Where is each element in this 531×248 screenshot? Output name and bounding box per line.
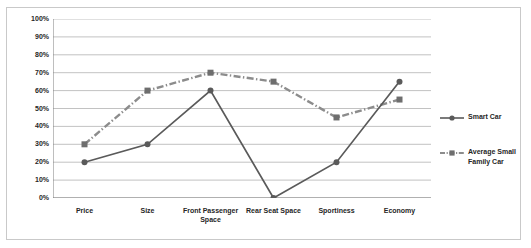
- data-point-marker: [271, 79, 277, 85]
- legend-item-smart-car: Smart Car: [439, 112, 519, 123]
- data-point-marker: [208, 88, 214, 94]
- x-axis-tick-label: Size: [116, 206, 179, 236]
- data-point-marker: [208, 70, 214, 76]
- x-axis-tick-label: Front Passenger Space: [179, 206, 242, 236]
- y-axis-tick-label: 10%: [15, 176, 49, 183]
- x-axis-tick-label: Economy: [368, 206, 431, 236]
- data-point-marker: [334, 114, 340, 120]
- legend-item-average-small-family-car: Average Small Family Car: [439, 147, 519, 167]
- x-axis-tick-label: Price: [53, 206, 116, 236]
- legend-label-smart-car: Smart Car: [468, 112, 501, 122]
- chart-legend: Smart Car Average Small Family Car: [439, 112, 519, 191]
- y-axis-tick-label: 90%: [15, 33, 49, 40]
- chart-container: 100%90%80%70%60%50%40%30%20%10%0% PriceS…: [6, 7, 521, 240]
- y-axis-tick-label: 70%: [15, 69, 49, 76]
- data-point-marker: [82, 141, 88, 147]
- y-axis: 100%90%80%70%60%50%40%30%20%10%0%: [11, 19, 49, 198]
- y-axis-tick-label: 100%: [15, 15, 49, 22]
- x-axis-tick-label: Sportiness: [305, 206, 368, 236]
- plot-svg: [53, 19, 431, 198]
- y-axis-tick-label: 60%: [15, 87, 49, 94]
- plot-area: [53, 19, 431, 198]
- legend-label-average-small-family-car: Average Small Family Car: [468, 147, 519, 167]
- data-point-marker: [397, 97, 403, 103]
- y-axis-tick-label: 40%: [15, 122, 49, 129]
- y-axis-tick-label: 50%: [15, 105, 49, 112]
- data-point-marker: [334, 159, 340, 165]
- y-axis-tick-label: 0%: [15, 194, 49, 201]
- legend-key-average-small-family-car-icon: [439, 148, 465, 158]
- y-axis-tick-label: 20%: [15, 158, 49, 165]
- legend-key-smart-car-icon: [439, 113, 465, 123]
- y-axis-tick-label: 80%: [15, 51, 49, 58]
- x-axis: PriceSizeFront Passenger SpaceRear Seat …: [53, 206, 431, 236]
- x-axis-tick-label: Rear Seat Space: [242, 206, 305, 236]
- data-point-marker: [397, 79, 403, 85]
- data-point-marker: [145, 141, 151, 147]
- data-point-marker: [82, 159, 88, 165]
- data-point-marker: [145, 88, 151, 94]
- series-line: [85, 82, 400, 198]
- y-axis-tick-label: 30%: [15, 140, 49, 147]
